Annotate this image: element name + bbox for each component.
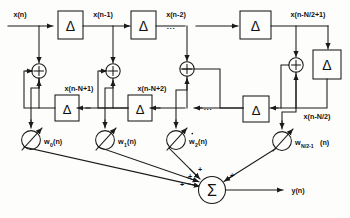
adder-3-to-weight-path [176,76,187,126]
svg-text:(n): (n) [198,137,208,146]
sum-plus-2: + [188,172,192,181]
svg-text:w: w [294,138,301,147]
svg-text:(n): (n) [320,138,330,147]
svg-text:(n): (n) [127,137,137,146]
tap-label-top-1: x(n-1) [93,10,113,19]
weight-1-to-sum [24,147,198,186]
ellipsis-top: ... [167,22,175,31]
tap-label-bottom-3: x(n-N/2) [304,112,331,121]
tap-label-top-3: x(n-N/2+1) [291,10,327,19]
adder-1-to-weight-path [31,78,39,126]
summation-symbol: Σ [207,182,217,199]
output-label: y(n) [291,186,305,195]
signal-flow-diagram: x(n) x(n-1) x(n-2) x(n-N/2+1) x(n-N+1) x… [0,0,350,218]
tap-label-bottom-1: x(n-N+1) [65,84,95,93]
weight-multiplier-3 [167,128,187,150]
delay-symbol-top-1: Δ [66,18,75,34]
adder-4-output-path [281,65,289,108]
weight-2-to-sum [98,147,197,181]
weight-label-4: w N/2-1 (n) [294,138,330,149]
delay-symbol-top-2: Δ [139,18,148,34]
svg-text:(n): (n) [53,137,63,146]
adder-4 [289,58,303,72]
adder-1 [32,64,46,78]
delay-symbol-bottom-2: Δ [136,102,145,117]
delay-symbol-bottom-1: Δ [63,102,72,117]
svg-text:w: w [43,137,50,146]
weight-multiplier-4 [273,129,293,151]
svg-text:w: w [117,137,124,146]
input-label: x(n) [13,10,27,19]
diagram-canvas: x(n) x(n-1) x(n-2) x(n-N/2+1) x(n-N+1) x… [0,0,350,218]
adder-2-to-weight-path [105,78,113,126]
adder-2 [106,64,120,78]
ellipsis-bottom: ... [204,103,212,112]
right-delay-output-path [272,79,327,108]
arrow-sum-in-1 [188,184,200,187]
sum-plus-4: + [230,171,234,180]
weight-label-1: w 0 (n) [43,137,63,148]
svg-text:N/2-1: N/2-1 [301,143,314,149]
tap-label-bottom-2: x(n-N+2) [138,84,168,93]
delay-symbol-right: Δ [322,57,331,73]
weight-label-2: w 1 (n) [117,137,137,148]
delay-symbol-top-3: Δ [251,18,260,34]
dot-accent-icon [191,133,193,135]
sum-plus-1: + [180,180,184,189]
weight-label-3: w 2 (n) [188,133,208,148]
tap-label-top-2: x(n-2) [166,10,186,19]
sum-plus-3: + [198,165,202,174]
delay-symbol-bottom-3: Δ [252,103,261,118]
svg-text:w: w [188,137,195,146]
adder-4-to-weight-path [282,72,296,127]
